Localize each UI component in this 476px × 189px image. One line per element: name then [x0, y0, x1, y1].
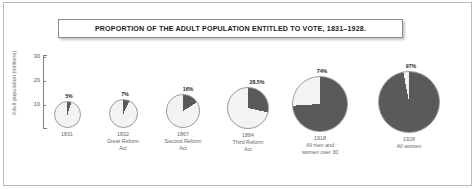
pie-caption-year-1918: 1918 — [280, 135, 360, 142]
y-axis-label: Adult population (millions) — [11, 38, 17, 128]
y-axis-line — [43, 55, 44, 129]
pie-caption-line2-1918: All men and — [280, 142, 360, 149]
pie-caption-line2-1928: All women — [369, 143, 449, 150]
pie-value-label-1884: 28.5% — [239, 79, 275, 85]
y-axis-tick-label-10: 10 — [24, 101, 40, 107]
pie-value-label-1832: 7% — [107, 91, 143, 97]
pie-caption-1884: 1884Third ReformAct — [208, 132, 288, 154]
pie-caption-line2-1884: Third Reform — [208, 139, 288, 146]
pie-caption-year-1884: 1884 — [208, 132, 288, 139]
pie-1867 — [166, 94, 200, 128]
pie-caption-line3-1884: Act — [208, 146, 288, 153]
page-title: PROPORTION OF THE ADULT POPULATION ENTIT… — [95, 25, 366, 33]
y-axis-tick-20 — [43, 81, 46, 82]
pie-1928 — [378, 71, 440, 133]
pie-1832 — [109, 99, 138, 128]
pie-value-label-1831: 5% — [51, 93, 87, 99]
chart-figure: PROPORTION OF THE ADULT POPULATION ENTIT… — [0, 0, 476, 189]
pie-caption-line3-1918: women over 30 — [280, 149, 360, 156]
y-axis-tick-10 — [43, 105, 46, 106]
pie-value-label-1867: 16% — [170, 86, 206, 92]
pie-value-label-1928: 97% — [393, 63, 429, 69]
pie-1884 — [227, 87, 269, 129]
pie-caption-1918: 1918All men andwomen over 30 — [280, 135, 360, 157]
pie-caption-1928: 1928All women — [369, 136, 449, 150]
pie-value-label-1918: 74% — [304, 68, 340, 74]
pie-1918 — [292, 76, 348, 132]
pie-caption-year-1928: 1928 — [369, 136, 449, 143]
y-axis-cap-top — [43, 55, 47, 56]
y-axis-tick-30 — [43, 57, 46, 58]
y-axis-tick-label-20: 20 — [24, 77, 40, 83]
pie-1831 — [54, 101, 81, 128]
y-axis-cap-bottom — [43, 128, 47, 129]
y-axis-tick-label-30: 30 — [24, 53, 40, 59]
chart-title-box: PROPORTION OF THE ADULT POPULATION ENTIT… — [58, 19, 403, 38]
